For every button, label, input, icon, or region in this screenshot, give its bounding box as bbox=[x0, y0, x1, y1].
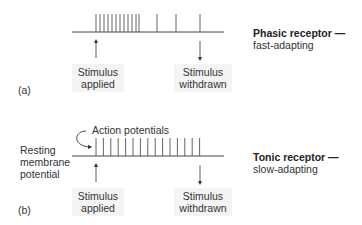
spikes-b bbox=[96, 138, 200, 156]
panel-b-trace bbox=[72, 131, 224, 183]
panel-a-tag: (a) bbox=[18, 84, 31, 96]
stimulus-withdrawn-a: Stimulus withdrawn bbox=[174, 64, 232, 92]
curved-arrow-icon bbox=[77, 131, 90, 147]
stimulus-applied-b: Stimulus applied bbox=[72, 188, 124, 216]
label-line: Stimulus bbox=[177, 66, 229, 78]
label-line: applied bbox=[75, 202, 121, 214]
stimulus-applied-a: Stimulus applied bbox=[72, 64, 124, 92]
phasic-title: Phasic receptor — bbox=[253, 27, 345, 39]
label-line: Resting bbox=[20, 144, 70, 156]
resting-membrane-label: Resting membrane potential bbox=[20, 144, 70, 180]
label-line: withdrawn bbox=[177, 202, 229, 214]
action-potentials-label: Action potentials bbox=[92, 124, 169, 136]
panel-a-trace bbox=[72, 14, 224, 59]
label-line: membrane bbox=[20, 156, 70, 168]
tonic-title: Tonic receptor — bbox=[253, 151, 339, 163]
panel-b-tag: (b) bbox=[18, 204, 31, 216]
label-line: Stimulus bbox=[75, 66, 121, 78]
stimulus-withdrawn-b: Stimulus withdrawn bbox=[174, 188, 232, 216]
label-line: Stimulus bbox=[177, 190, 229, 202]
label-line: potential bbox=[20, 168, 70, 180]
phasic-subtitle: fast-adapting bbox=[253, 39, 314, 51]
label-line: applied bbox=[75, 78, 121, 90]
label-line: withdrawn bbox=[177, 78, 229, 90]
tonic-subtitle: slow-adapting bbox=[253, 163, 318, 175]
spikes-a bbox=[96, 14, 200, 32]
label-line: Stimulus bbox=[75, 190, 121, 202]
